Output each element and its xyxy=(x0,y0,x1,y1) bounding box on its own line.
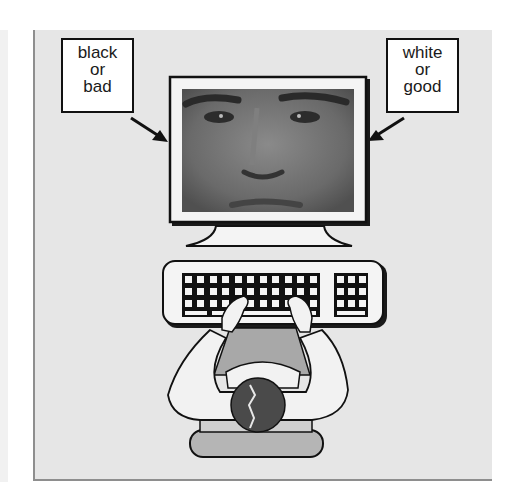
label-line: bad xyxy=(63,78,132,95)
keyboard xyxy=(163,261,387,328)
label-line: black xyxy=(63,44,132,61)
label-line: good xyxy=(388,78,457,95)
label-white-or-good: white or good xyxy=(386,38,459,113)
label-line: or xyxy=(388,61,457,78)
chair xyxy=(190,430,323,457)
label-black-or-bad: black or bad xyxy=(61,38,134,113)
left-arrow-icon xyxy=(131,118,168,142)
right-arrow-icon xyxy=(368,118,404,141)
monitor xyxy=(170,77,370,246)
head xyxy=(231,378,285,432)
face-photo xyxy=(182,89,354,212)
label-line: or xyxy=(63,61,132,78)
label-line: white xyxy=(388,44,457,61)
